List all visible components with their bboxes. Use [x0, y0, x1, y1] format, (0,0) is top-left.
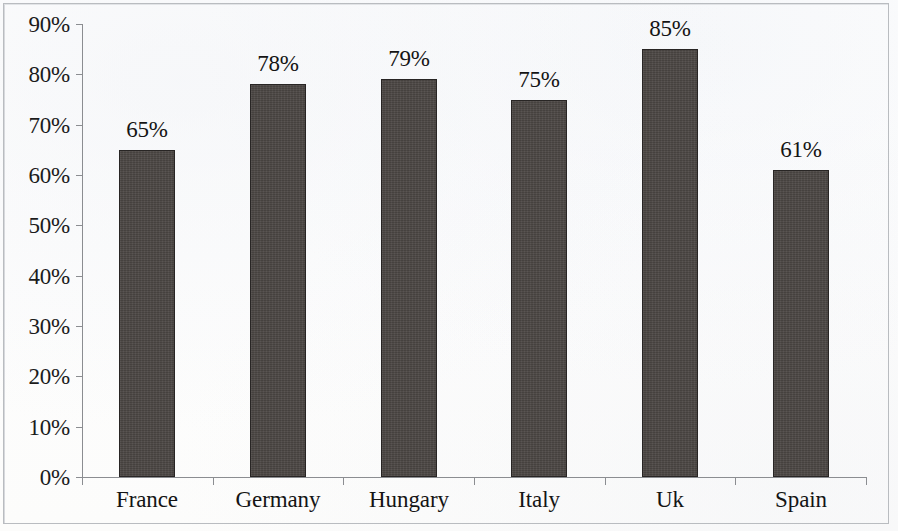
bar-chart-plot-area: 0%10%20%30%40%50%60%70%80%90% 65%78%79%7… [0, 0, 898, 531]
bar-data-label: 61% [756, 138, 846, 161]
x-axis-tick [735, 477, 736, 485]
x-axis-tick [866, 477, 867, 485]
y-axis-tick-label: 40% [0, 265, 70, 288]
bar [511, 100, 567, 477]
bar-data-label: 78% [233, 52, 323, 75]
y-axis-tick-label: 10% [0, 416, 70, 439]
x-axis-category-label: Germany [208, 488, 348, 511]
bar [381, 79, 437, 477]
bar-data-label: 79% [364, 47, 454, 70]
y-axis-line [82, 24, 83, 478]
y-axis-tick [76, 125, 83, 126]
chart-page: 0%10%20%30%40%50%60%70%80%90% 65%78%79%7… [0, 0, 898, 531]
x-axis-category-label: Hungary [339, 488, 479, 511]
y-axis-tick-label: 80% [0, 63, 70, 86]
bar-data-label: 65% [102, 118, 192, 141]
x-axis-category-label: France [77, 488, 217, 511]
bar-data-label: 75% [494, 68, 584, 91]
y-axis-tick [76, 175, 83, 176]
y-axis-tick [76, 74, 83, 75]
bar [119, 150, 175, 477]
bar [773, 170, 829, 477]
x-axis-tick [82, 477, 83, 485]
y-axis-tick-label: 20% [0, 365, 70, 388]
y-axis-tick-label: 0% [0, 466, 70, 489]
y-axis-tick-label: 60% [0, 164, 70, 187]
y-axis-tick [76, 326, 83, 327]
y-axis-tick-label: 70% [0, 114, 70, 137]
y-axis-tick [76, 427, 83, 428]
bar [642, 49, 698, 477]
y-axis-tick-label: 30% [0, 315, 70, 338]
x-axis-category-label: Uk [600, 488, 740, 511]
x-axis-category-label: Spain [731, 488, 871, 511]
y-axis-tick-label: 50% [0, 214, 70, 237]
y-axis-tick [76, 276, 83, 277]
x-axis-tick [343, 477, 344, 485]
x-axis-category-label: Italy [469, 488, 609, 511]
x-axis-tick [605, 477, 606, 485]
y-axis-tick-label: 90% [0, 13, 70, 36]
y-axis-tick [76, 24, 83, 25]
x-axis-tick [474, 477, 475, 485]
y-axis-tick [76, 225, 83, 226]
bar [250, 84, 306, 477]
bar-data-label: 85% [625, 17, 715, 40]
x-axis-tick [213, 477, 214, 485]
y-axis-tick [76, 376, 83, 377]
